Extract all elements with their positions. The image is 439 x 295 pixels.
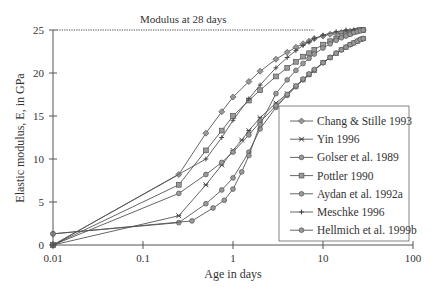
legend-label: Meschke 1996 bbox=[317, 206, 385, 218]
y-tick-label: 20 bbox=[33, 67, 45, 79]
x-ticks: 0.010.1110100 bbox=[43, 241, 421, 264]
y-tick-label: 25 bbox=[33, 24, 45, 36]
legend-label: Chang & Stille 1993 bbox=[317, 115, 412, 128]
legend-label: Aydan et al. 1992a bbox=[317, 188, 403, 201]
legend-label: Yin 1996 bbox=[317, 133, 360, 145]
x-axis-label: Age in days bbox=[204, 267, 262, 281]
y-tick-label: 10 bbox=[33, 153, 45, 165]
elastic-modulus-chart: 0.010.1110100 0510152025 Age in days Ela… bbox=[0, 0, 439, 295]
y-tick-label: 5 bbox=[39, 196, 45, 208]
x-tick-label: 0.1 bbox=[136, 252, 150, 264]
x-tick-label: 1 bbox=[230, 252, 236, 264]
y-tick-label: 0 bbox=[39, 239, 45, 251]
legend-label: Hellmich et al. 1999b bbox=[317, 224, 417, 236]
legend-label: Golser et al. 1989 bbox=[317, 151, 399, 163]
legend: Chang & Stille 1993Yin 1996Golser et al.… bbox=[279, 106, 417, 241]
legend-label: Pottler 1990 bbox=[317, 170, 374, 182]
x-tick-label: 10 bbox=[318, 252, 330, 264]
reference-annotation: Modulus at 28 days bbox=[140, 13, 226, 25]
y-tick-label: 15 bbox=[33, 110, 45, 122]
x-tick-label: 100 bbox=[405, 252, 422, 264]
x-tick-label: 0.01 bbox=[43, 252, 62, 264]
y-axis-label: Elastic modulus, E, in GPa bbox=[13, 73, 27, 203]
